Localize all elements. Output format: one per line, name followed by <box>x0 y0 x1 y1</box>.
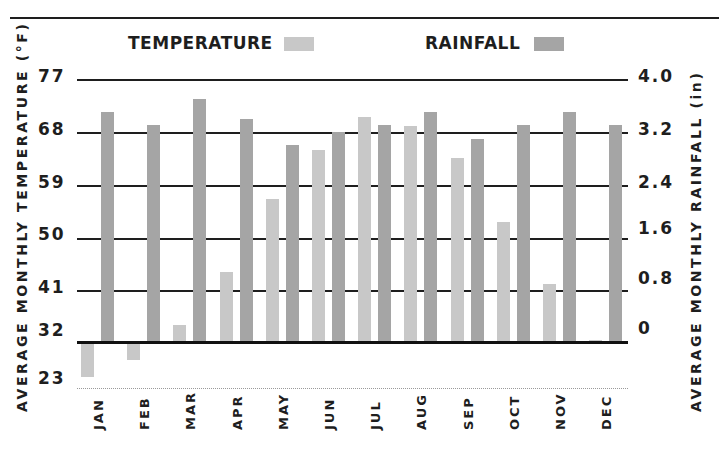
temperature-bar <box>173 325 186 343</box>
rainfall-bar <box>563 112 576 342</box>
rainfall-bar <box>147 125 160 342</box>
temperature-bar <box>543 284 556 342</box>
right-axis-title: AVERAGE MONTHLY RAINFALL (in) <box>688 71 704 412</box>
rainfall-bar <box>471 139 484 342</box>
month-label: AUG <box>414 393 429 430</box>
month-label: APR <box>230 394 245 430</box>
left-tick: 32 <box>38 322 66 339</box>
right-tick: 4.0 <box>638 68 674 85</box>
left-tick: 77 <box>38 68 66 85</box>
temperature-bar <box>266 199 279 342</box>
temperature-bar <box>127 342 140 360</box>
baseline-23 <box>77 388 628 389</box>
temperature-bar <box>358 117 371 342</box>
left-tick: 23 <box>38 370 66 387</box>
rainfall-bar <box>240 119 253 342</box>
left-tick: 50 <box>38 226 66 243</box>
right-tick: 2.4 <box>638 174 674 191</box>
right-tick: 3.2 <box>638 121 674 138</box>
legend-temperature-label: TEMPERATURE <box>128 33 273 53</box>
gridline <box>77 79 628 81</box>
month-label: NOV <box>553 392 568 430</box>
rainfall-bar <box>286 145 299 342</box>
rainfall-bar <box>193 99 206 342</box>
rainfall-bar <box>517 125 530 342</box>
legend-rainfall-swatch <box>534 37 564 51</box>
right-tick: 0.8 <box>638 270 674 287</box>
temperature-bar <box>312 150 325 343</box>
temperature-bar <box>497 222 510 342</box>
month-label: FEB <box>137 396 152 430</box>
month-label: JAN <box>91 398 106 430</box>
left-axis-title: AVERAGE MONTHLY TEMPERATURE (°F) <box>14 22 30 413</box>
left-tick: 68 <box>38 121 66 138</box>
month-label: DEC <box>599 395 614 430</box>
rainfall-bar <box>332 132 345 342</box>
temperature-bar <box>220 272 233 342</box>
month-label: MAY <box>276 393 291 430</box>
rainfall-bar <box>101 112 114 342</box>
month-label: JUL <box>368 400 383 430</box>
temperature-bar <box>451 158 464 342</box>
month-label: OCT <box>507 395 522 430</box>
temperature-bar <box>404 126 417 342</box>
zero-axis-line <box>77 341 628 344</box>
month-label: JUN <box>322 398 337 430</box>
month-label: MAR <box>183 391 198 430</box>
legend-rainfall-label: RAINFALL <box>425 33 520 53</box>
left-tick: 59 <box>38 174 66 191</box>
right-tick: 0 <box>638 320 652 337</box>
temperature-bar <box>81 342 94 377</box>
right-tick: 1.6 <box>638 220 674 237</box>
top-rule <box>10 17 719 19</box>
rainfall-bar <box>609 125 622 342</box>
left-tick: 41 <box>38 279 66 296</box>
month-label: SEP <box>461 396 476 430</box>
legend-temperature-swatch <box>284 37 314 51</box>
rainfall-bar <box>424 112 437 342</box>
rainfall-bar <box>378 125 391 342</box>
